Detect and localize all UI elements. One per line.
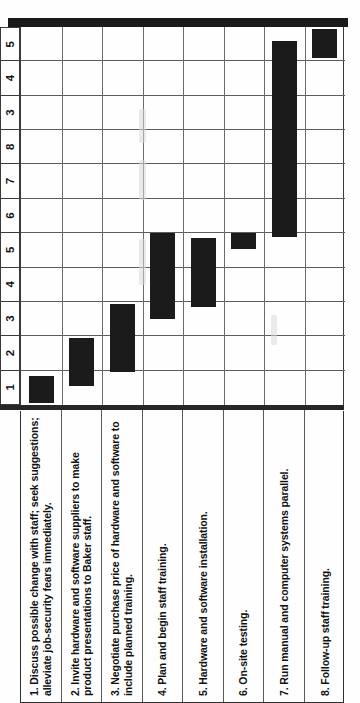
tick-label: 5 [4,247,16,253]
task-label-row: 3. Negotiate purchase price of hardware … [102,410,143,702]
task-label-column: 1. Discuss possible change with staff; s… [20,411,344,703]
tick-label: 5 [4,41,16,47]
week-tick-7: 7 [0,164,20,198]
task-label-text: 8. Follow-up staff training. [319,414,331,696]
task-gridline [62,27,63,405]
task-label-text: 5. Hardware and software installation. [197,414,209,696]
task-label-text: 6. On-site testing. [237,414,249,696]
task-label-row: 1. Discuss possible change with staff; s… [21,410,62,702]
week-tick-3: 3 [0,302,20,336]
month-tick-4: 4 [0,61,20,95]
tick-label: 2 [4,350,16,356]
task-gridline [143,27,144,405]
task-label-text: 1. Discuss possible change with staff; s… [28,414,53,696]
gantt-bar-task-6 [231,233,256,248]
tick-label: 4 [4,75,16,81]
gantt-bar-task-2 [69,338,94,386]
gantt-plot-area [20,27,344,405]
task-label-text: 2. Invite hardware and software supplier… [69,414,94,696]
task-gridline [224,27,225,405]
scan-artifact [139,239,146,285]
scan-artifact [271,315,277,345]
task-label-row: 4. Plan and begin staff training. [143,410,184,702]
task-gridline [264,27,265,405]
tick-label: 1 [4,384,16,390]
tick-label: 4 [4,281,16,287]
task-gridline [183,27,184,405]
task-label-row: 7. Run manual and computer systems paral… [264,410,305,702]
week-tick-5: 5 [0,233,20,267]
task-label-row: 2. Invite hardware and software supplier… [62,410,103,702]
time-scale-axis: 12345678345 [0,27,20,405]
task-label-text: 3. Negotiate purchase price of hardware … [109,414,134,696]
rotated-canvas: WeeksMonths 12345678345 1. Discuss possi… [0,0,360,703]
task-label-row: 8. Follow-up staff training. [305,410,346,702]
week-tick-2: 2 [0,336,20,370]
task-label-row: 6. On-site testing. [224,410,265,702]
task-gridline [102,27,103,405]
gantt-bar-task-5 [191,238,216,307]
week-tick-6: 6 [0,199,20,233]
tick-label: 3 [4,109,16,115]
task-label-row: 5. Hardware and software installation. [183,410,224,702]
month-tick-5: 5 [0,27,20,61]
scan-artifact [139,109,146,143]
month-tick-3: 3 [0,96,20,130]
week-tick-8: 8 [0,130,20,164]
tick-label: 3 [4,315,16,321]
week-tick-4: 4 [0,268,20,302]
gantt-bar-task-3 [110,304,135,373]
scan-artifact [139,160,146,200]
gantt-chart-canvas: WeeksMonths 12345678345 1. Discuss possi… [0,0,360,703]
gantt-bar-task-1 [29,376,54,403]
gantt-chart-figure: WeeksMonths 12345678345 1. Discuss possi… [0,0,360,703]
outer-heavy-border [8,18,348,27]
task-label-text: 4. Plan and begin staff training. [156,414,168,696]
week-tick-1: 1 [0,371,20,405]
task-gridline [305,27,306,405]
tick-label: 7 [4,178,16,184]
task-label-text: 7. Run manual and computer systems paral… [278,414,290,696]
tick-label: 6 [4,212,16,218]
gantt-bar-task-7 [272,41,297,237]
gantt-bar-task-4 [150,233,175,319]
gantt-bar-task-8 [312,29,337,58]
tick-label: 8 [4,144,16,150]
